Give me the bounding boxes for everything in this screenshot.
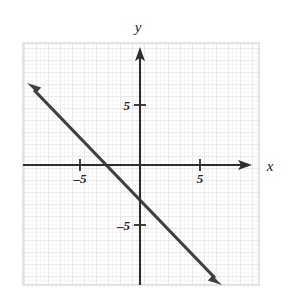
y-tick-label-pos-5: 5 — [124, 98, 131, 113]
x-tick-label-neg-5: –5 — [73, 171, 88, 186]
x-tick-label-pos-5: 5 — [197, 171, 204, 186]
y-tick-label-neg-5: –5 — [116, 218, 131, 233]
coordinate-graph-figure: –5 5 5 –5 x y — [0, 0, 293, 302]
y-axis-label: y — [133, 19, 142, 35]
x-axis-label: x — [266, 158, 274, 174]
graph-canvas: –5 5 5 –5 x y — [0, 0, 293, 302]
